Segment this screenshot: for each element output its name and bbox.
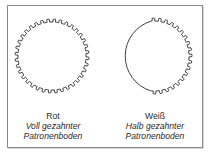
- description-line2: Patronenboden: [8, 131, 98, 141]
- description-line1: Halb gezahnter: [110, 121, 200, 131]
- full-toothed-cartridge-base-icon: [15, 19, 89, 93]
- description-line1: Voll gezahnter: [8, 121, 98, 131]
- caption-red-full: Rot Voll gezahnter Patronenboden: [8, 111, 98, 141]
- half-toothed-cartridge-base-icon: [125, 18, 192, 94]
- caption-white-half: Weiß Halb gezahnter Patronenboden: [110, 111, 200, 141]
- description-line2: Patronenboden: [110, 131, 200, 141]
- color-label-white: Weiß: [110, 111, 200, 121]
- color-label-red: Rot: [8, 111, 98, 121]
